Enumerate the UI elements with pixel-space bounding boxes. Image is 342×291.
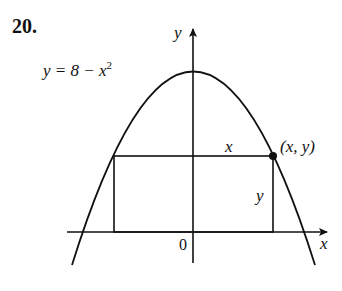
y-axis-label: y — [172, 23, 182, 42]
rect-height-label: y — [254, 186, 264, 205]
curve-label: y = 8 − x2 — [41, 59, 112, 80]
origin-label: 0 — [179, 236, 187, 253]
problem-number: 20. — [12, 15, 37, 37]
x-axis-label: x — [319, 234, 328, 253]
diagram: 20. y = 8 − x2 y x 0 x y (x, y) — [0, 0, 342, 291]
rect-width-label: x — [224, 137, 233, 156]
point-label: (x, y) — [280, 137, 315, 156]
point-marker — [269, 152, 277, 160]
